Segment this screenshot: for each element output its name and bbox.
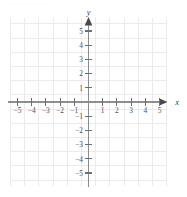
y-tick-label: 2	[79, 69, 83, 78]
y-axis-arrowhead	[85, 17, 93, 26]
y-axis-label: y	[86, 8, 91, 17]
y-tick-label: −5	[75, 169, 83, 178]
y-tick-label: 4	[79, 41, 83, 50]
x-tick-label: 5	[158, 106, 162, 115]
x-tick-labels: −5 −4 −3 −2 −1 1 2 3 4 5	[14, 106, 162, 115]
x-tick-label: −5	[14, 106, 22, 115]
x-axis-label: x	[174, 98, 179, 107]
x-tick-label: −4	[28, 106, 36, 115]
x-tick-label: 3	[129, 106, 133, 115]
x-tick-label: −3	[42, 106, 50, 115]
y-tick-label: −2	[75, 126, 83, 135]
coordinate-plane-figure: −5 −4 −3 −2 −1 1 2 3 4 5 5 4 3 2 1 −1 −2…	[0, 0, 187, 197]
y-tick-label: 3	[79, 55, 83, 64]
y-tick-label: 1	[79, 84, 83, 93]
cartesian-grid-svg: −5 −4 −3 −2 −1 1 2 3 4 5 5 4 3 2 1 −1 −2…	[0, 0, 187, 197]
x-tick-label: 2	[115, 106, 119, 115]
y-tick-label: −1	[75, 112, 83, 121]
x-tick-label: 1	[101, 106, 105, 115]
y-tick-label: −4	[75, 155, 83, 164]
y-tick-label: −3	[75, 140, 83, 149]
x-tick-label: −2	[56, 106, 64, 115]
y-tick-label: 5	[79, 27, 83, 36]
x-tick-label: 4	[143, 106, 147, 115]
